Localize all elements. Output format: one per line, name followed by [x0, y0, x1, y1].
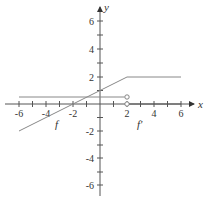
y-tick-label: 2 — [89, 72, 94, 83]
chart: -6 -4 -2 2 4 6 6 4 2 -2 -4 -6 x y f f' — [0, 0, 206, 197]
x-tick-label: 2 — [125, 108, 130, 119]
x-tick-label: -6 — [15, 108, 23, 119]
fprime-open-point-lower — [125, 102, 129, 106]
y-tick-label: 6 — [89, 16, 94, 27]
x-tick-label: 6 — [179, 108, 184, 119]
y-tick-label: 4 — [89, 44, 94, 55]
y-tick-label: -6 — [86, 180, 94, 191]
fprime-label: f' — [137, 118, 143, 130]
fprime-open-point-upper — [125, 95, 129, 99]
y-tick-label: -2 — [86, 126, 94, 137]
f-label: f — [55, 118, 60, 130]
y-axis-label: y — [103, 1, 109, 13]
x-tick-label: -2 — [69, 108, 77, 119]
x-tick-label: 4 — [152, 108, 157, 119]
x-axis-label: x — [197, 98, 203, 110]
y-tick-label: -4 — [86, 153, 94, 164]
